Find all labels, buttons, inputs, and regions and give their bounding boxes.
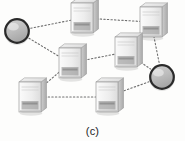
- server-node-middle-right[interactable]: [115, 33, 143, 71]
- link-gwleft-srvmiddle: [29, 38, 61, 57]
- server-tower-icon: [59, 44, 87, 78]
- server-node-bottom-left[interactable]: [19, 78, 47, 116]
- server-tower-icon: [96, 78, 124, 112]
- network-topology-figure: (c): [0, 0, 185, 141]
- server-tower-icon: [140, 3, 168, 37]
- gateway-node-right[interactable]: [149, 65, 175, 91]
- server-node-top-right[interactable]: [140, 3, 168, 41]
- server-tower-icon: [19, 78, 47, 112]
- topology-canvas: [0, 0, 185, 141]
- server-node-top[interactable]: [71, 0, 99, 37]
- server-node-middle[interactable]: [59, 44, 87, 82]
- gateway-circle-icon: [5, 19, 29, 43]
- link-gwleft-srvtop: [31, 20, 71, 28]
- server-tower-icon: [115, 33, 143, 67]
- server-node-bottom-middle[interactable]: [96, 78, 124, 116]
- gateway-highlight: [8, 23, 19, 31]
- figure-caption: (c): [0, 125, 185, 138]
- gateway-highlight: [153, 69, 164, 77]
- server-tower-icon: [71, 0, 99, 33]
- gateway-node-left[interactable]: [4, 19, 30, 45]
- link-srvtop-srvtopright: [93, 19, 140, 22]
- gateway-circle-icon: [150, 65, 174, 89]
- node-layer: [4, 0, 175, 116]
